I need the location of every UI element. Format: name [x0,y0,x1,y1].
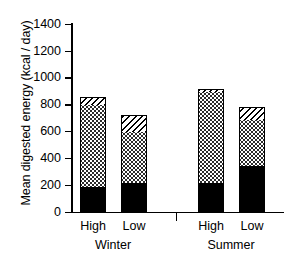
x-group-label-summer: Summer [186,238,276,252]
y-tick-mark-1200 [65,51,72,52]
bar-segment-dotted [81,105,105,187]
bar-segment-solid [81,187,105,213]
y-tick-mark-1400 [65,24,72,25]
bar-winter-high[interactable] [80,97,106,212]
y-tick-label-600: 600 [17,125,61,137]
bar-segment-hatched [240,108,264,120]
x-label-summer-low: Low [222,219,282,233]
bar-winter-low[interactable] [121,115,147,212]
y-tick-label-1400: 1400 [17,18,61,30]
bar-segment-solid [240,166,264,213]
y-tick-mark-200 [65,185,72,186]
bar-segment-dotted [199,92,223,183]
x-group-label-winter: Winter [68,238,158,252]
bar-segment-solid [199,183,223,213]
y-tick-mark-600 [65,131,72,132]
bar-summer-low[interactable] [239,107,265,212]
plot-area [72,24,284,212]
bar-segment-hatched [122,116,146,132]
y-tick-mark-1000 [65,77,72,78]
y-tick-label-800: 800 [17,98,61,110]
bar-segment-dotted [240,120,264,166]
bar-summer-high[interactable] [198,89,224,213]
y-tick-label-0: 0 [17,206,61,218]
chart-container: Mean digested energy (kcal / day) 1400 1… [0,0,306,260]
group-separator-tick [176,213,177,221]
y-tick-label-400: 400 [17,152,61,164]
y-tick-label-1200: 1200 [17,45,61,57]
y-tick-label-200: 200 [17,179,61,191]
x-label-winter-low: Low [104,219,164,233]
bar-segment-hatched [81,98,105,105]
bar-segment-dotted [122,132,146,183]
y-tick-mark-800 [65,104,72,105]
y-tick-mark-400 [65,158,72,159]
y-tick-mark-0 [65,212,72,213]
bar-segment-solid [122,183,146,213]
y-tick-label-1000: 1000 [17,71,61,83]
